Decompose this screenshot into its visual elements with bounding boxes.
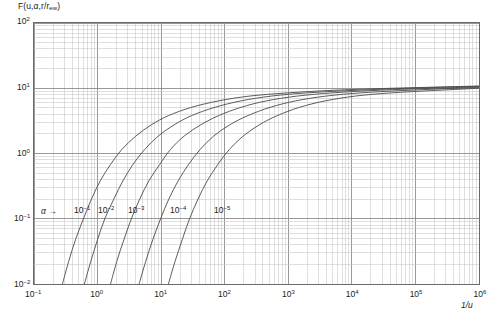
curve-10-4 [139,87,479,284]
alpha-annotation: α → [41,206,57,216]
x-tick-5-exponent: 5 [419,289,422,295]
y-axis-title: F(u,α,r/rew) [18,1,60,11]
x-tick-0-exponent: 0 [100,289,103,295]
x-tick-2-base: 10 [218,289,227,299]
curve-label-10-2: 10−2 [98,205,114,215]
x-tick-label-5: 105 [410,289,423,299]
y-axis-title-subscript: ew [49,5,57,11]
x-tick-label-0: 100 [90,289,103,299]
y-tick-label-1: 101 [17,82,30,92]
y-tick-label-2: 102 [17,16,30,26]
curve-label-10-3-exponent: −3 [137,205,144,211]
curve-label-10-5-exponent: −5 [223,205,230,211]
y-tick-0-exponent: 0 [26,148,29,154]
curve-label-10-2-exponent: −2 [107,205,114,211]
alpha-arrow-icon: → [48,206,57,216]
y-tick-1-exponent: 1 [26,82,29,88]
x-tick-6-exponent: 6 [483,289,486,295]
curve-layer [34,23,479,284]
curve-label-10-5: 10−5 [214,205,230,215]
curve-10-2 [84,86,479,284]
y-tick--2-exponent: −2 [23,279,30,285]
x-tick-0-base: 10 [90,289,99,299]
x-tick-label-6: 106 [474,289,487,299]
y-tick-label--2: 10−2 [14,279,30,289]
x-tick-1-base: 10 [154,289,163,299]
x-tick-label-3: 103 [282,289,295,299]
curve-label-10-1-exponent: −1 [83,205,90,211]
curve-label-10-4-exponent: −4 [179,205,186,211]
curve-label-10-3: 10−3 [128,205,144,215]
x-axis-title-text: 1/u [461,300,473,310]
x-tick-1-exponent: 1 [164,289,167,295]
curve-10-3 [111,87,479,284]
curve-label-10-1: 10−1 [74,205,90,215]
y-tick--1-exponent: −1 [23,214,30,220]
y-axis-title-closeparen: ) [57,1,60,11]
x-tick-3-exponent: 3 [291,289,294,295]
figure-root: F(u,α,r/rew) 10−110010110210310410510610… [0,0,496,316]
alpha-symbol: α [41,206,46,216]
curve-10-1 [62,86,479,284]
x-tick-6-base: 10 [474,289,483,299]
x-tick-label--1: 10−1 [25,289,41,299]
y-tick-2-exponent: 2 [26,16,29,22]
plot-area [33,22,480,285]
x-tick-2-exponent: 2 [228,289,231,295]
x-tick--1-exponent: −1 [34,289,41,295]
y-tick-label--1: 10−1 [14,213,30,223]
x-tick-3-base: 10 [282,289,291,299]
x-tick-label-1: 101 [154,289,167,299]
x-axis-title: 1/u [461,300,473,310]
x-tick-label-4: 104 [346,289,359,299]
x-tick-5-base: 10 [410,289,419,299]
y-axis-title-main: F(u,α,r/r [18,1,49,11]
x-tick-label-2: 102 [218,289,231,299]
y-tick-label-0: 100 [17,148,30,158]
x-tick-4-base: 10 [346,289,355,299]
x-tick-4-exponent: 4 [355,289,358,295]
curve-label-10-4: 10−4 [170,205,186,215]
